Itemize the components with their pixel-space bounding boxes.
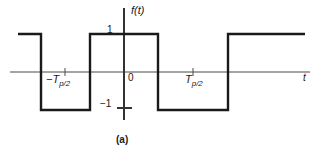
x-tick-label-negative-tp-half: −Tp/2 <box>46 74 70 88</box>
figure-container: f(t) 1 0 −1 −Tp/2 Tp/2 t (a) <box>0 0 325 148</box>
y-tick-label-positive-one: 1 <box>107 25 113 35</box>
x-axis-label: t <box>303 73 306 83</box>
y-axis-label: f(t) <box>131 5 144 16</box>
x-tick-negative-subscript: p/2 <box>59 79 70 88</box>
x-tick-label-positive-tp-half: Tp/2 <box>185 74 203 88</box>
x-tick-negative-base: −T <box>46 73 59 85</box>
figure-caption: (a) <box>116 135 128 145</box>
x-tick-positive-base: T <box>185 73 192 85</box>
y-tick-label-negative-one: −1 <box>100 99 111 109</box>
x-tick-positive-subscript: p/2 <box>192 79 203 88</box>
origin-label: 0 <box>128 73 134 83</box>
